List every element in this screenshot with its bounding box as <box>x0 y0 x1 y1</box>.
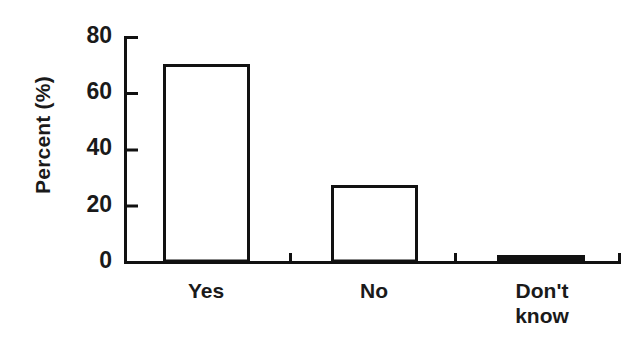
bar-yes[interactable] <box>165 66 249 262</box>
bar-no[interactable] <box>333 187 417 262</box>
bar-dont-know[interactable] <box>499 257 584 262</box>
x-tick-label-dont-know-line1: Don't <box>482 279 602 304</box>
y-axis-ticks <box>126 38 138 207</box>
x-tick-label-dont-know-line2: know <box>482 304 602 329</box>
bar-chart: Percent (%) 80 60 40 20 0 <box>0 0 636 353</box>
x-tick-label-no: No <box>314 279 434 304</box>
bar-series <box>165 66 584 262</box>
x-tick-label-yes: Yes <box>146 279 266 304</box>
